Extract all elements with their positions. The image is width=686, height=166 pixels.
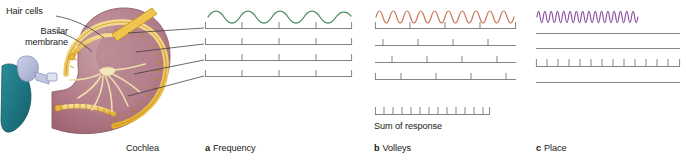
caption-panel-b-letter: b <box>374 143 380 153</box>
panel-b-row-3 <box>375 56 516 63</box>
label-hair-cells: Hair cells <box>6 6 43 17</box>
panel-b-volleys <box>375 11 516 115</box>
panel-b-neuron-rows <box>375 22 516 80</box>
panel-a-waveform <box>208 11 351 23</box>
basal-knob <box>55 105 61 111</box>
panel-a-row-3 <box>205 54 352 61</box>
caption-panel-b: bVolleys <box>374 143 411 153</box>
panel-b-row-4 <box>375 73 516 80</box>
caption-panel-b-text: Volleys <box>383 143 411 153</box>
panel-c-row-3 <box>536 59 680 67</box>
panel-a-row-4 <box>205 70 352 77</box>
label-basilar-membrane: Basilar membrane <box>6 26 68 48</box>
cochlea-frequency-figure: Hair cells Basilar membrane Cochlea Sum … <box>0 0 686 166</box>
figure-canvas <box>0 0 686 166</box>
panel-b-row-2 <box>375 39 516 46</box>
label-sum-of-response: Sum of response <box>374 121 442 132</box>
label-cochlea: Cochlea <box>126 143 159 154</box>
panel-a-row-2 <box>205 38 352 45</box>
panel-b-waveform <box>376 11 514 23</box>
caption-panel-c: cPlace <box>536 143 567 153</box>
panel-c-waveform <box>537 11 638 22</box>
label-basilar-line-1: Basilar <box>6 26 68 37</box>
panel-a-neuron-rows <box>205 22 352 77</box>
oval-window <box>47 73 57 81</box>
caption-panel-c-text: Place <box>544 143 566 153</box>
panel-a-frequency <box>205 11 352 77</box>
caption-panel-a-letter: a <box>205 143 210 153</box>
panel-b-row-1 <box>375 22 516 29</box>
panel-c-neuron-rows <box>536 34 680 83</box>
caption-panel-a-text: Frequency <box>213 143 256 153</box>
apex-knob <box>69 54 75 60</box>
panel-b-sum-row <box>375 107 490 115</box>
panel-c-place <box>536 11 680 82</box>
caption-panel-a: aFrequency <box>205 143 256 153</box>
caption-panel-c-letter: c <box>536 143 541 153</box>
stapes-shape <box>17 56 38 81</box>
label-basilar-line-2: membrane <box>6 37 68 48</box>
